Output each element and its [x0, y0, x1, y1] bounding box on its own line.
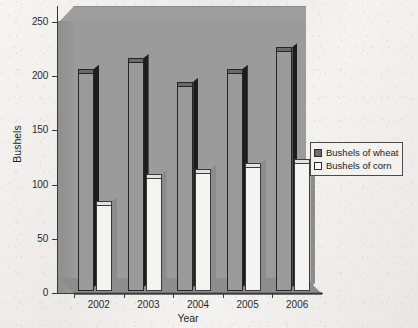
bar-front-face [195, 173, 211, 291]
y-axis-tick-label: 200 [8, 70, 48, 81]
legend-item-wheat[interactable]: Bushels of wheat [314, 146, 398, 159]
y-axis-line [57, 6, 58, 294]
bar-side-face [162, 170, 167, 287]
legend-swatch-icon [314, 162, 322, 170]
bar-bushels-of-corn-2002 [96, 201, 112, 291]
y-axis-tick [52, 185, 58, 186]
bar-front-face [245, 167, 261, 291]
bar-front-face [227, 73, 243, 291]
bar-top-face [96, 201, 112, 206]
x-axis-tick [272, 293, 273, 298]
bar-front-face [78, 73, 94, 291]
y-axis-tick [52, 76, 58, 77]
x-axis-tick-label: 2003 [126, 299, 170, 310]
bar-bushels-of-corn-2006 [294, 159, 310, 291]
bar-top-face [227, 69, 243, 74]
y-axis-tick-label: 50 [8, 233, 48, 244]
legend-swatch-icon [314, 149, 322, 157]
bar-bushels-of-wheat-2003 [128, 58, 144, 291]
bar-top-face [128, 58, 144, 63]
bar-top-face [177, 82, 193, 87]
legend-label: Bushels of wheat [326, 147, 398, 158]
bar-bushels-of-corn-2005 [245, 163, 261, 291]
bar-front-face [128, 62, 144, 291]
bar-front-face [276, 51, 292, 291]
x-axis-tick-label: 2005 [226, 299, 270, 310]
y-axis-title: Bushels [11, 109, 23, 179]
bar-front-face [96, 205, 112, 291]
bar-front-face [294, 163, 310, 291]
x-axis-tick [173, 293, 174, 298]
bar-chart: 050100150200250 20022003200420052006 Bus… [0, 0, 418, 328]
chart-legend: Bushels of wheat Bushels of corn [310, 142, 403, 176]
x-axis-tick-label: 2006 [275, 299, 319, 310]
bar-top-face [146, 174, 162, 179]
bar-top-face [245, 163, 261, 168]
y-axis-tick [52, 22, 58, 23]
x-axis-tick [223, 293, 224, 298]
bar-bushels-of-wheat-2004 [177, 82, 193, 291]
x-axis-tick [124, 293, 125, 298]
y-axis-tick-label: 0 [8, 287, 48, 298]
legend-label: Bushels of corn [326, 160, 391, 171]
x-axis-line [57, 293, 323, 294]
bar-side-face [112, 197, 117, 287]
y-axis-tick [52, 239, 58, 240]
bar-bushels-of-wheat-2005 [227, 69, 243, 291]
x-axis-tick-label: 2002 [77, 299, 121, 310]
bar-bushels-of-wheat-2006 [276, 47, 292, 291]
bar-top-face [294, 159, 310, 164]
bar-side-face [211, 165, 216, 287]
plot-left-wall [58, 21, 74, 293]
x-axis-title: Year [148, 312, 228, 324]
y-axis-tick-label: 100 [8, 179, 48, 190]
bar-bushels-of-wheat-2002 [78, 69, 94, 291]
bar-side-face [261, 159, 266, 287]
bar-front-face [177, 86, 193, 291]
x-axis-tick [74, 293, 75, 298]
y-axis-tick-label: 250 [8, 16, 48, 27]
bar-top-face [195, 169, 211, 174]
x-axis-tick-label: 2004 [176, 299, 220, 310]
bar-front-face [146, 178, 162, 291]
legend-item-corn[interactable]: Bushels of corn [314, 159, 398, 172]
bar-top-face [276, 47, 292, 52]
y-axis-tick [52, 293, 58, 294]
bar-top-face [78, 69, 94, 74]
bar-bushels-of-corn-2004 [195, 169, 211, 291]
bar-bushels-of-corn-2003 [146, 174, 162, 291]
y-axis-tick [52, 130, 58, 131]
